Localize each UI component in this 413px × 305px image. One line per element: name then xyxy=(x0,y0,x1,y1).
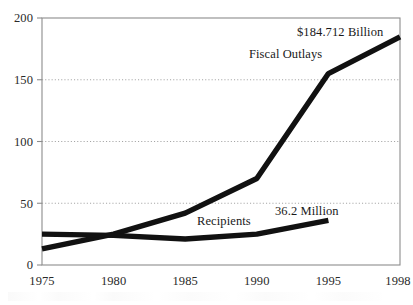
annotation-fiscal-outlays-value: $184.712 Billion xyxy=(297,26,383,39)
y-axis-tick-100: 100 xyxy=(0,136,33,149)
y-axis-tick-50: 50 xyxy=(0,198,33,211)
chart-container: 200 150 100 50 0 1975 1980 1985 1990 199… xyxy=(0,0,413,305)
page-edge-artifact xyxy=(8,292,398,301)
annotation-fiscal-outlays-label: Fiscal Outlays xyxy=(249,48,322,61)
annotation-recipients-label: Recipients xyxy=(197,215,251,228)
annotation-recipients-value: 36.2 Million xyxy=(275,205,339,218)
y-tick-marks xyxy=(37,18,42,265)
x-axis-tick-1995: 1995 xyxy=(298,275,358,288)
x-axis-tick-1998: 1998 xyxy=(368,275,413,288)
series-line-recipients xyxy=(42,220,328,239)
y-axis-tick-200: 200 xyxy=(0,12,33,25)
x-axis-tick-1980: 1980 xyxy=(84,275,144,288)
x-axis-tick-1975: 1975 xyxy=(12,275,72,288)
y-axis-tick-150: 150 xyxy=(0,74,33,87)
y-axis-tick-0: 0 xyxy=(0,259,33,272)
x-axis-tick-1985: 1985 xyxy=(155,275,215,288)
gridlines xyxy=(42,80,400,204)
line-chart-graphic xyxy=(0,0,413,305)
x-axis-tick-1990: 1990 xyxy=(227,275,287,288)
